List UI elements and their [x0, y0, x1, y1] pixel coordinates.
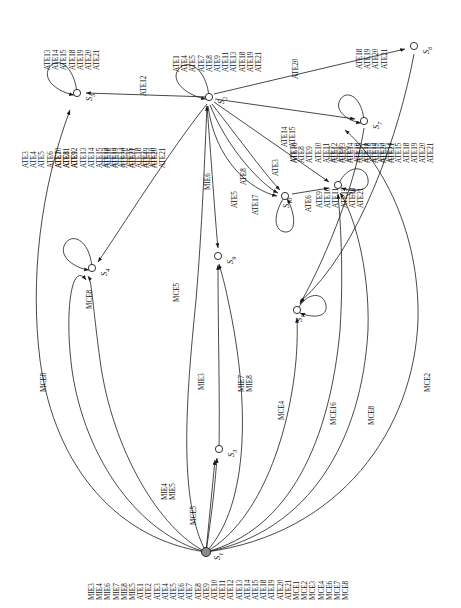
- edge-label: ATE6: [305, 195, 313, 212]
- edge-label: MCE2: [424, 373, 432, 392]
- edge-label: ATE19: [143, 148, 151, 168]
- edge-label: ATE17: [252, 195, 260, 215]
- edge-label: ATE13: [44, 50, 52, 70]
- edge-label: ATE18: [364, 143, 372, 163]
- state-node-s6[interactable]: [410, 42, 417, 49]
- edge-s1-s5-outer: [36, 110, 206, 552]
- edge-label-group-ate3: ATE3: [272, 159, 280, 176]
- edge-label: ATE18: [349, 188, 357, 208]
- edge-label: ATE12: [227, 580, 235, 600]
- edge-label-group-mce16: MCE16: [330, 402, 338, 425]
- edge-label: MCE5: [190, 506, 198, 525]
- state-label-s5: S5: [85, 94, 96, 101]
- edge-label: ATE20: [372, 49, 380, 69]
- edge-label-group-ate8: ATE8: [240, 168, 248, 185]
- edge-label: ATE21: [357, 188, 365, 208]
- edge-label: MCE16: [330, 402, 338, 425]
- edge-s6-s11: [300, 54, 414, 302]
- edge-label: ATE13: [339, 143, 347, 163]
- edge-label: MIE3: [88, 580, 96, 600]
- edge-label: ATE11: [222, 52, 230, 72]
- edge-label: ATE12: [102, 148, 110, 168]
- edge-label: MIE4: [96, 580, 104, 600]
- edge-s1-s11-mce4: [206, 318, 297, 552]
- edge-label: ATE11: [323, 143, 331, 163]
- edge-label: ATE9: [316, 188, 324, 208]
- edge-label-group-left-col-c: ATE12ATE13ATE14ATE15ATE18ATE19ATE20ATE21: [102, 148, 168, 168]
- state-node-s5[interactable]: [73, 89, 80, 96]
- edge-label: ATE13: [341, 188, 349, 208]
- edge-label: ATE5: [231, 191, 239, 208]
- state-node-s7[interactable]: [360, 117, 367, 124]
- edge-label-group-ate20: ATE20: [292, 59, 300, 79]
- edge-label: MIE8: [246, 375, 254, 392]
- edge-label: ATE18: [403, 143, 411, 163]
- edge-label: ATE19: [247, 52, 255, 72]
- edge-label: ATE18: [135, 148, 143, 168]
- edge-label: ATE21: [159, 148, 167, 168]
- edge-label: ATE2: [145, 580, 153, 600]
- edge-s1-s4-a: [69, 276, 206, 552]
- self-loop-s4: [63, 239, 92, 270]
- edge-label: ATE19: [77, 50, 85, 70]
- edge-label: MCE2: [301, 580, 309, 600]
- edge-label: MIE5: [169, 483, 177, 500]
- edge-label: MCE6: [326, 580, 334, 600]
- edge-label: ATE10: [324, 188, 332, 208]
- edge-label: MCE8: [342, 580, 350, 600]
- edge-s2-s7-ate14-15: [215, 99, 355, 119]
- edge-label: ATE14: [244, 580, 252, 600]
- edge-label: ATE7: [290, 143, 298, 163]
- edge-label: ATE20: [277, 580, 285, 600]
- edge-label: ATE3: [22, 151, 30, 168]
- edge-label: ATE4: [30, 151, 38, 168]
- edge-label-group-ate17: ATE17: [252, 195, 260, 215]
- edge-label: ATE21: [388, 143, 396, 163]
- edge-label: ATE12: [331, 143, 339, 163]
- edge-label: MIE6: [104, 580, 112, 600]
- edge-label: ATE9: [306, 143, 314, 163]
- state-node-s2[interactable]: [205, 93, 212, 100]
- edge-label-group-mce2: MCE2: [424, 373, 432, 392]
- edge-label: ATE12: [140, 76, 148, 96]
- edge-label: ATE13: [236, 580, 244, 600]
- edge-label: ATE21: [255, 52, 263, 72]
- edge-s1-s8-mce16: [206, 194, 342, 552]
- state-node-s1[interactable]: [201, 547, 210, 556]
- edge-label: ATE20: [380, 143, 388, 163]
- state-node-s4[interactable]: [88, 264, 95, 271]
- edge-label: ATE19: [372, 143, 380, 163]
- edge-s2-s4-ate2-ate10: [98, 104, 207, 262]
- edge-label: ATE7: [186, 580, 194, 600]
- edge-label: ATE14: [118, 148, 126, 168]
- edge-label-group-s8-incoming: ATE7ATE8ATE9ATE10ATE11ATE12ATE13ATE14ATE…: [290, 143, 397, 163]
- edge-label: ATE11: [63, 148, 71, 168]
- edge-s1-s3-mie45: [206, 460, 215, 552]
- edge-label: ATE4: [181, 52, 189, 72]
- edge-label-group-s5-loop: ATE13ATE14ATE15ATE18ATE19ATE20ATE21: [44, 50, 101, 70]
- edge-label: MCE7: [334, 580, 342, 600]
- edge-label-group-s7-loop: ATE18ATE19ATE20ATE21: [356, 49, 389, 69]
- state-node-s3[interactable]: [215, 445, 222, 452]
- edge-label: MCE8: [368, 406, 376, 425]
- edges-from-initial-state: [36, 106, 418, 552]
- state-label-s1: S1: [213, 553, 224, 560]
- edge-label: MIE5: [129, 580, 137, 600]
- state-label-s2: S2: [217, 97, 228, 104]
- edge-label: ATE19: [268, 580, 276, 600]
- edge-label: ATE14: [52, 50, 60, 70]
- edge-label: ATE21: [285, 580, 293, 600]
- state-label-s3: S3: [227, 450, 238, 457]
- edge-label: ATE14: [347, 143, 355, 163]
- edge-label-group-mie3: MIE3: [198, 373, 206, 390]
- edge-label-group-s11-loop: ATE9ATE10ATE11ATE13ATE18ATE21: [316, 188, 365, 208]
- edge-label: MCE3: [309, 580, 317, 600]
- edge-label: ATE5: [170, 580, 178, 600]
- state-node-s9[interactable]: [214, 252, 221, 259]
- edge-label: ATE13: [230, 52, 238, 72]
- edge-label: MCE8: [40, 373, 48, 392]
- edge-label: ATE6: [47, 151, 55, 168]
- edge-label-group-mce5-top: MCE5: [173, 283, 181, 302]
- edge-s1-s4-b: [88, 276, 206, 552]
- edge-label: ATE5: [38, 151, 46, 168]
